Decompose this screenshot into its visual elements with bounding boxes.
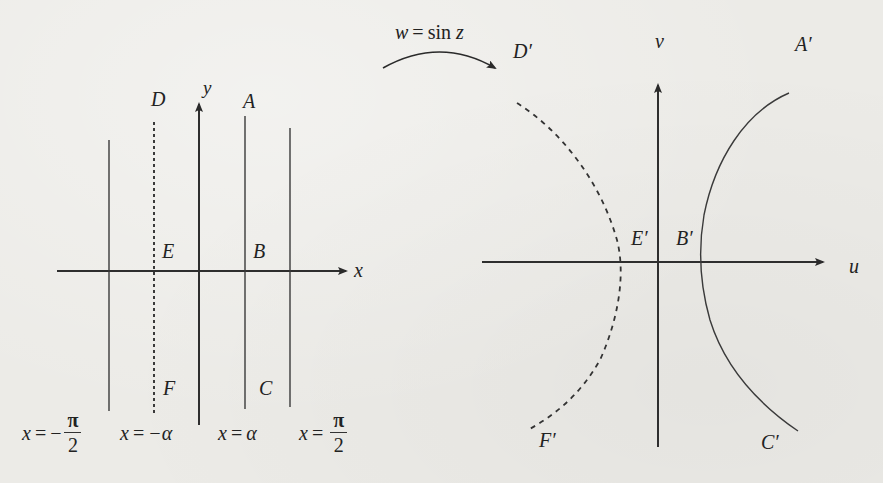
- fraction-numerator: π: [330, 410, 347, 433]
- eq-rhs: α: [246, 423, 257, 443]
- eq-lhs: x: [120, 423, 129, 443]
- fraction-denominator: 2: [334, 433, 344, 455]
- label-point-D: D: [151, 89, 165, 109]
- equation-x-half-pi: x = π 2: [299, 410, 347, 455]
- label-point-D-prime: D′: [513, 41, 532, 61]
- eq-equals: =: [312, 423, 323, 443]
- label-point-C-prime: C′: [761, 432, 779, 452]
- mapping-function: sin: [428, 22, 451, 42]
- fraction: π 2: [330, 410, 347, 455]
- mapping-label: w = sin z: [395, 22, 464, 42]
- label-point-A: A: [243, 91, 255, 111]
- fraction: π 2: [64, 410, 81, 455]
- label-point-E-prime: E′: [631, 228, 648, 248]
- conformal-map-figure: [0, 0, 883, 483]
- eq-lhs: x: [299, 423, 308, 443]
- label-point-C: C: [259, 378, 272, 398]
- left-hyperbola-branch: [517, 103, 621, 430]
- label-u-axis: u: [849, 256, 859, 276]
- label-point-E: E: [162, 241, 174, 261]
- label-v-axis: v: [655, 31, 664, 51]
- label-point-F-prime: F′: [539, 430, 556, 450]
- label-point-B: B: [253, 241, 265, 261]
- mapping-lhs: w: [395, 22, 408, 42]
- eq-rhs: −α: [148, 423, 172, 443]
- equation-x-alpha: x = α: [218, 423, 257, 443]
- eq-equals: =: [133, 423, 144, 443]
- fraction-numerator: π: [64, 410, 81, 433]
- eq-lhs: x: [218, 423, 227, 443]
- eq-equals: =: [35, 423, 46, 443]
- equation-x-minus-half-pi: x = − π 2: [22, 410, 81, 455]
- equation-x-minus-alpha: x = −α: [120, 423, 172, 443]
- mapping-arrow: [383, 52, 495, 68]
- mapping-equals: =: [412, 22, 423, 42]
- label-point-A-prime: A′: [795, 34, 812, 54]
- eq-equals: =: [231, 423, 242, 443]
- label-y-axis: y: [203, 78, 211, 97]
- label-x-axis: x: [354, 260, 363, 280]
- label-point-F: F: [163, 378, 175, 398]
- eq-lhs: x: [22, 423, 31, 443]
- mapping-argument: z: [456, 22, 464, 42]
- label-point-B-prime: B′: [676, 228, 693, 248]
- z-plane: [57, 104, 346, 425]
- w-plane: [482, 85, 823, 447]
- eq-sign: −: [50, 423, 61, 443]
- fraction-denominator: 2: [68, 433, 78, 455]
